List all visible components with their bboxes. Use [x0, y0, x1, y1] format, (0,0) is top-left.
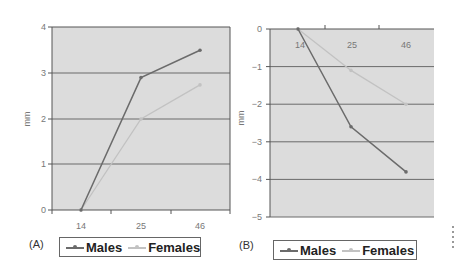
y-tick-label: −3 — [252, 137, 262, 147]
legend-label: Females — [362, 243, 414, 258]
y-tick-label: 0 — [41, 205, 46, 215]
y-tick-label: −5 — [252, 212, 262, 222]
y-tick-label: 1 — [41, 159, 46, 169]
y-tick-label: 0 — [257, 24, 262, 34]
y-tick-label: −4 — [252, 174, 262, 184]
panel-label-b: (B) — [239, 239, 254, 251]
legend-label: Males — [300, 243, 336, 258]
y-tick-label: −2 — [252, 99, 262, 109]
x-tick-label: 14 — [295, 40, 305, 50]
y-axis-label: mm — [22, 112, 32, 127]
legend-label: Males — [86, 240, 122, 255]
x-tick-label: 46 — [401, 40, 411, 50]
y-axis-label: mm — [236, 111, 246, 126]
legend-item-males: Males — [280, 243, 336, 258]
males-line-icon — [280, 245, 298, 255]
x-tick-label: 25 — [347, 40, 357, 50]
legend-item-females: Females — [128, 240, 200, 255]
females-line-icon — [342, 245, 360, 255]
chart-a: 4 3 2 1 0 14 25 46 mm — [22, 22, 230, 231]
legend-item-males: Males — [66, 240, 122, 255]
y-tick-label: 3 — [41, 68, 46, 78]
y-tick-label: 4 — [41, 22, 46, 32]
legend-label: Females — [148, 240, 200, 255]
y-tick-label: −1 — [252, 62, 262, 72]
legend-item-females: Females — [342, 243, 414, 258]
x-tick-label: 46 — [195, 221, 205, 231]
x-tick-label: 25 — [136, 221, 146, 231]
chart-b-plot-area — [270, 29, 434, 217]
females-line-icon — [128, 242, 146, 252]
x-tick-label: 14 — [76, 221, 86, 231]
panel-label-a: (A) — [29, 238, 44, 250]
y-tick-label: 2 — [41, 114, 46, 124]
legend-a: Males Females — [59, 237, 201, 257]
legend-b: Males Females — [273, 240, 417, 260]
chart-b: 0 −1 −2 −3 −4 −5 14 25 46 mm — [236, 24, 434, 222]
males-line-icon — [66, 242, 84, 252]
figure-canvas: 4 3 2 1 0 14 25 46 mm — [0, 0, 454, 274]
